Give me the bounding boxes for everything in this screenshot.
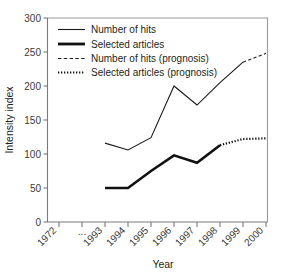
x-tick-labels: 1972 ... 1993 1994 1995 1996 1997 1998 1… xyxy=(35,224,266,248)
y-tick-label: 250 xyxy=(24,47,41,58)
series-selected-articles xyxy=(105,145,220,188)
x-tick-label: 1995 xyxy=(127,224,151,248)
legend-label-number-of-hits: Number of hits xyxy=(91,24,156,35)
chart-figure: 300 250 200 150 100 50 0 Intensity index… xyxy=(0,0,283,274)
legend-label-number-of-hits-prognosis: Number of hits (prognosis) xyxy=(91,53,209,64)
y-tick-label: 150 xyxy=(24,115,41,126)
x-tick-label: 2000 xyxy=(242,224,266,248)
y-tick-label: 300 xyxy=(24,13,41,24)
x-tick-label: 1996 xyxy=(150,224,174,248)
x-axis-title: Year xyxy=(152,258,174,270)
series-selected-articles-prognosis xyxy=(220,138,266,145)
y-tick-label: 200 xyxy=(24,81,41,92)
y-tick-label: 50 xyxy=(30,183,42,194)
line-chart-svg: 300 250 200 150 100 50 0 Intensity index… xyxy=(0,0,283,274)
y-tick-label: 0 xyxy=(35,217,41,228)
legend-label-selected-articles: Selected articles xyxy=(91,39,164,50)
y-tick-labels: 300 250 200 150 100 50 0 xyxy=(24,13,41,228)
x-tick-label: 1972 xyxy=(35,224,59,248)
x-tick-label: 1994 xyxy=(104,224,128,248)
y-tick-marks xyxy=(44,18,48,222)
x-tick-label: 1999 xyxy=(219,224,243,248)
x-tick-label: 1997 xyxy=(173,224,197,248)
y-tick-label: 100 xyxy=(24,149,41,160)
chart-legend: Number of hits Selected articles Number … xyxy=(58,24,217,78)
y-axis-title: Intensity index xyxy=(3,86,15,154)
x-tick-label: 1998 xyxy=(196,224,220,248)
legend-label-selected-articles-prognosis: Selected articles (prognosis) xyxy=(91,67,217,78)
series-number-of-hits-prognosis xyxy=(243,53,266,62)
